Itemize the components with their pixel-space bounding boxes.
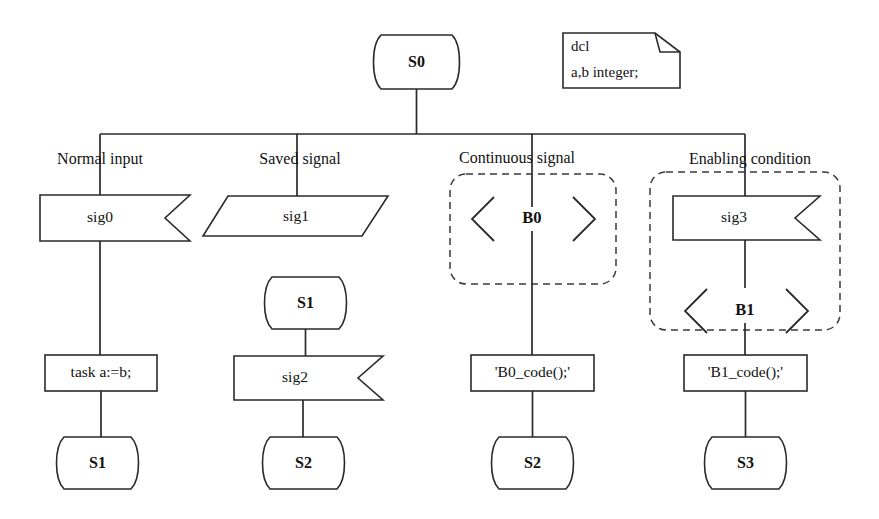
input-symbol-sig2[interactable]: sig2 <box>234 356 383 400</box>
declaration-line-2: a,b integer; <box>571 64 638 80</box>
task-symbol-assign[interactable]: task a:=b; <box>45 355 157 391</box>
input-shape-outline <box>40 195 190 241</box>
task-symbol-b1-code[interactable]: 'B1_code();' <box>684 355 807 391</box>
state-symbol-s1-col2[interactable]: S1 <box>265 277 347 329</box>
caption-saved-signal: Saved signal <box>259 150 341 168</box>
state-label-s1: S1 <box>89 454 106 471</box>
input-symbol-sig0[interactable]: sig0 <box>40 195 190 241</box>
state-label-s2: S2 <box>524 454 541 471</box>
state-label-s1: S1 <box>297 294 314 311</box>
caption-enabling-condition: Enabling condition <box>689 150 811 168</box>
caption-continuous-signal: Continuous signal <box>459 149 576 167</box>
input-shape-outline <box>234 356 383 400</box>
state-label-s3: S3 <box>737 454 754 471</box>
input-label-sig3: sig3 <box>721 208 747 225</box>
right-angle-bracket-icon <box>573 197 595 241</box>
input-label-sig2: sig2 <box>282 368 308 385</box>
left-angle-bracket-icon <box>685 289 707 333</box>
caption-normal-input: Normal input <box>57 150 143 168</box>
condition-label-b1: B1 <box>735 300 754 319</box>
state-label-s2: S2 <box>295 454 312 471</box>
condition-symbol-b0[interactable]: B0 <box>472 197 595 241</box>
state-symbol-s2-col2[interactable]: S2 <box>263 437 345 489</box>
input-label-sig0: sig0 <box>87 208 113 225</box>
condition-label-b0: B0 <box>522 208 541 227</box>
state-symbol-s3-col4[interactable]: S3 <box>705 437 787 489</box>
task-label-b1-code: 'B1_code();' <box>708 363 784 381</box>
sdl-diagram-canvas: S0 dcl a,b integer; Normal input Saved s… <box>0 0 879 519</box>
save-label-sig1: sig1 <box>283 207 309 224</box>
state-label-s0: S0 <box>408 53 425 70</box>
task-label-assign: task a:=b; <box>71 363 132 380</box>
group-box-continuous-signal <box>450 174 616 284</box>
right-angle-bracket-icon <box>786 289 808 333</box>
left-angle-bracket-icon <box>472 197 494 241</box>
state-symbol-s2-col3[interactable]: S2 <box>492 437 574 489</box>
task-symbol-b0-code[interactable]: 'B0_code();' <box>471 355 594 391</box>
declaration-line-1: dcl <box>571 38 589 54</box>
state-symbol-s1-col1[interactable]: S1 <box>57 437 139 489</box>
input-symbol-sig3[interactable]: sig3 <box>673 196 820 240</box>
sdl-diagram-svg: S0 dcl a,b integer; Normal input Saved s… <box>0 0 879 519</box>
state-symbol-s0[interactable]: S0 <box>374 35 460 89</box>
save-symbol-sig1[interactable]: sig1 <box>203 196 388 236</box>
task-label-b0-code: 'B0_code();' <box>495 363 571 381</box>
declaration-text-box[interactable]: dcl a,b integer; <box>563 33 680 88</box>
condition-symbol-b1[interactable]: B1 <box>685 289 808 333</box>
